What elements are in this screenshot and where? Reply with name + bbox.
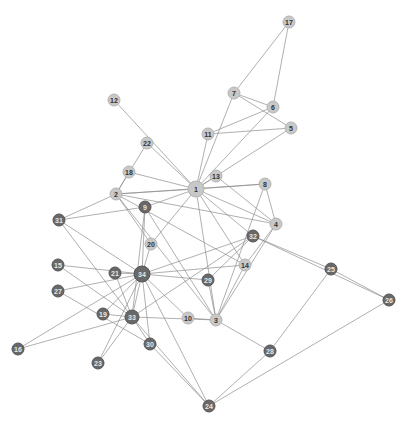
node-label: 25 xyxy=(327,266,335,273)
node-label: 2 xyxy=(114,191,118,198)
edge-25-32 xyxy=(253,236,331,269)
edge-3-14 xyxy=(216,265,245,320)
edge-3-33 xyxy=(132,317,216,320)
node-label: 14 xyxy=(241,262,249,269)
edge-1-22 xyxy=(147,143,196,189)
edge-25-26 xyxy=(331,269,389,300)
node-12[interactable]: 12 xyxy=(108,94,120,106)
edge-2-31 xyxy=(59,194,116,220)
node-20[interactable]: 20 xyxy=(145,238,157,250)
node-34[interactable]: 34 xyxy=(134,266,150,282)
node-2[interactable]: 2 xyxy=(110,188,122,200)
edge-14-34 xyxy=(142,265,245,274)
node-label: 23 xyxy=(94,360,102,367)
node-19[interactable]: 19 xyxy=(97,308,109,320)
node-label: 10 xyxy=(184,315,192,322)
node-label: 11 xyxy=(204,131,212,138)
edge-1-14 xyxy=(196,189,245,265)
edge-29-34 xyxy=(142,274,208,280)
node-label: 7 xyxy=(232,90,236,97)
node-label: 28 xyxy=(266,348,274,355)
node-label: 29 xyxy=(204,277,212,284)
node-21[interactable]: 21 xyxy=(109,267,121,279)
edge-24-30 xyxy=(150,344,209,406)
edge-9-33 xyxy=(132,207,145,317)
edge-layer xyxy=(18,22,389,406)
node-label: 20 xyxy=(147,241,155,248)
node-32[interactable]: 32 xyxy=(247,230,259,242)
node-label: 27 xyxy=(54,288,62,295)
node-22[interactable]: 22 xyxy=(141,137,153,149)
node-label: 19 xyxy=(99,311,107,318)
edge-1-4 xyxy=(196,189,276,224)
edge-25-28 xyxy=(270,269,331,351)
node-6[interactable]: 6 xyxy=(267,101,279,113)
node-label: 15 xyxy=(54,262,62,269)
node-label: 16 xyxy=(14,346,22,353)
node-25[interactable]: 25 xyxy=(325,263,337,275)
node-label: 21 xyxy=(111,270,119,277)
node-28[interactable]: 28 xyxy=(264,345,276,357)
node-3[interactable]: 3 xyxy=(210,314,222,326)
node-15[interactable]: 15 xyxy=(52,259,64,271)
edge-16-33 xyxy=(18,317,132,349)
edge-27-34 xyxy=(58,274,142,291)
node-5[interactable]: 5 xyxy=(285,122,297,134)
edge-2-3 xyxy=(116,194,216,320)
node-11[interactable]: 11 xyxy=(202,128,214,140)
node-27[interactable]: 27 xyxy=(52,285,64,297)
node-label: 17 xyxy=(285,19,293,26)
edge-15-34 xyxy=(58,265,142,274)
node-8[interactable]: 8 xyxy=(259,178,271,190)
node-30[interactable]: 30 xyxy=(144,338,156,350)
node-label: 22 xyxy=(143,140,151,147)
node-33[interactable]: 33 xyxy=(125,310,139,324)
edge-32-34 xyxy=(142,236,253,274)
node-label: 5 xyxy=(289,125,293,132)
node-label: 30 xyxy=(146,341,154,348)
node-layer: 1234567891011121314151617181920212223242… xyxy=(12,16,395,412)
edge-24-26 xyxy=(209,300,389,406)
edge-3-8 xyxy=(216,184,265,320)
edge-3-28 xyxy=(216,320,270,351)
node-17[interactable]: 17 xyxy=(283,16,295,28)
node-13[interactable]: 13 xyxy=(210,170,222,182)
node-label: 32 xyxy=(249,233,257,240)
edge-6-17 xyxy=(273,22,289,107)
edge-1-32 xyxy=(196,189,253,236)
node-label: 18 xyxy=(125,169,133,176)
edge-3-9 xyxy=(145,207,216,320)
node-label: 31 xyxy=(55,217,63,224)
node-1[interactable]: 1 xyxy=(188,181,204,197)
node-label: 3 xyxy=(214,317,218,324)
node-10[interactable]: 10 xyxy=(182,312,194,324)
node-4[interactable]: 4 xyxy=(270,218,282,230)
node-label: 26 xyxy=(385,297,393,304)
node-label: 1 xyxy=(194,186,198,193)
node-label: 13 xyxy=(212,173,220,180)
node-18[interactable]: 18 xyxy=(123,166,135,178)
node-23[interactable]: 23 xyxy=(92,357,104,369)
node-14[interactable]: 14 xyxy=(239,259,251,271)
node-label: 12 xyxy=(110,97,118,104)
node-26[interactable]: 26 xyxy=(383,294,395,306)
network-graph: 1234567891011121314151617181920212223242… xyxy=(0,0,408,423)
node-24[interactable]: 24 xyxy=(203,400,215,412)
node-16[interactable]: 16 xyxy=(12,343,24,355)
node-label: 4 xyxy=(274,221,278,228)
node-9[interactable]: 9 xyxy=(139,201,151,213)
edge-24-28 xyxy=(209,351,270,406)
edge-31-34 xyxy=(59,220,142,274)
node-31[interactable]: 31 xyxy=(53,214,65,226)
node-29[interactable]: 29 xyxy=(202,274,214,286)
node-7[interactable]: 7 xyxy=(228,87,240,99)
edge-5-7 xyxy=(234,93,291,128)
edge-1-6 xyxy=(196,107,273,189)
node-label: 33 xyxy=(128,314,136,321)
node-label: 8 xyxy=(263,181,267,188)
node-label: 9 xyxy=(143,204,147,211)
node-label: 34 xyxy=(138,271,146,278)
edge-9-31 xyxy=(59,207,145,220)
node-label: 24 xyxy=(205,403,213,410)
edge-26-32 xyxy=(253,236,389,300)
